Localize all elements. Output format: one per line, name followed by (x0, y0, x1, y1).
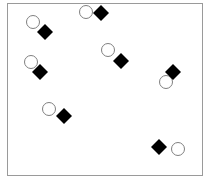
open-circle-marker (43, 103, 56, 116)
open-circle-marker (25, 56, 38, 69)
diagram-canvas (0, 0, 210, 182)
open-circle-marker (172, 143, 185, 156)
open-circle-marker (102, 44, 115, 57)
open-circle-marker (80, 6, 93, 19)
open-circle-marker (27, 16, 40, 29)
